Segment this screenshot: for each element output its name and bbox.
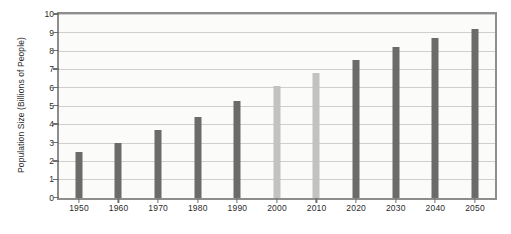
y-tick-mark [53,123,59,124]
y-tick-label: 3 [30,138,54,147]
y-tick-label: 6 [30,83,54,92]
y-tick-mark [53,105,59,106]
plot-area [57,12,497,200]
bar-1970 [155,130,162,198]
y-tick-label: 7 [30,65,54,74]
y-tick-mark [53,13,59,14]
bar-2000 [273,86,280,198]
x-tick-label: 1970 [148,203,168,213]
x-tick-label: 2040 [426,203,446,213]
x-tick-label: 1960 [109,203,129,213]
y-tick-label: 4 [30,120,54,129]
bar-2050 [471,29,478,198]
y-tick-mark [53,50,59,51]
y-tick-mark [53,68,59,69]
y-tick-mark [53,142,59,143]
x-tick-label: 2010 [307,203,327,213]
bar-1980 [194,117,201,198]
gridline [59,51,495,52]
y-tick-label: 0 [30,193,54,202]
x-tick-label: 1990 [228,203,248,213]
x-tick-label: 1950 [69,203,89,213]
y-tick-mark [53,179,59,180]
bar-2020 [353,60,360,198]
x-tick-label: 2020 [346,203,366,213]
bar-1950 [75,152,82,198]
x-tick-label: 2000 [267,203,287,213]
y-tick-label: 2 [30,157,54,166]
bar-1960 [115,143,122,198]
bar-1990 [234,101,241,198]
y-axis-tick-labels: 012345678910 [30,12,54,200]
y-tick-label: 9 [30,28,54,37]
x-tick-label: 2050 [465,203,485,213]
gridline [59,32,495,33]
y-tick-label: 1 [30,175,54,184]
gridline [59,69,495,70]
bar-2040 [432,38,439,198]
x-tick-label: 2030 [386,203,406,213]
y-tick-mark [53,197,59,198]
y-tick-label: 5 [30,102,54,111]
x-axis-tick-labels: 1950196019701980199020002010202020302040… [57,203,497,219]
population-bar-chart: Population Size (Billions of People) 012… [0,0,511,234]
y-tick-mark [53,160,59,161]
x-tick-label: 1980 [188,203,208,213]
y-tick-label: 10 [30,10,54,19]
bar-2030 [392,47,399,198]
y-tick-mark [53,32,59,33]
y-axis-title: Population Size (Billions of People) [14,5,28,205]
y-tick-label: 8 [30,46,54,55]
bar-2010 [313,73,320,198]
plot-inner [59,14,495,198]
gridline [59,14,495,15]
y-tick-mark [53,87,59,88]
